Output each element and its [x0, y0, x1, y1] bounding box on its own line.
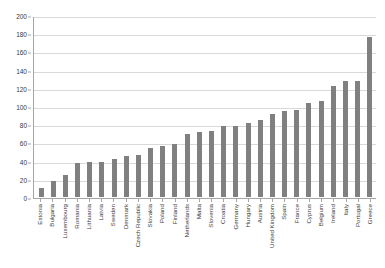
bar[interactable] [209, 131, 214, 197]
x-tick-slot: Finland [168, 199, 180, 268]
x-tick-mark [89, 199, 90, 202]
x-tick-label: Romania [74, 204, 80, 229]
bar[interactable] [63, 175, 68, 197]
x-tick-label: Denmark [123, 204, 129, 229]
bar-slot [278, 17, 290, 197]
bar[interactable] [331, 86, 336, 197]
bar[interactable] [246, 123, 251, 197]
x-tick-label: Malta [196, 204, 202, 219]
bar[interactable] [221, 126, 226, 197]
x-tick-label: Austria [257, 204, 263, 223]
bar[interactable] [343, 81, 348, 197]
y-tick-label: 160 [16, 50, 27, 57]
x-tick-mark [113, 199, 114, 202]
bar[interactable] [367, 37, 372, 197]
x-tick-label: Slovenia [208, 204, 214, 228]
bar[interactable] [75, 163, 80, 197]
x-tick-mark [272, 199, 273, 202]
bar-slot [327, 17, 339, 197]
y-tick-mark [28, 71, 31, 72]
bar-slot [230, 17, 242, 197]
x-tick-mark [284, 199, 285, 202]
bar[interactable] [197, 132, 202, 197]
x-tick-slot: Spain [278, 199, 290, 268]
x-tick-slot: Croatia [217, 199, 229, 268]
x-tick-mark [52, 199, 53, 202]
x-tick-mark [236, 199, 237, 202]
x-tick-mark [223, 199, 224, 202]
y-tick-mark [28, 126, 31, 127]
x-tick-label: Sweden [110, 204, 116, 226]
x-tick-mark [150, 199, 151, 202]
x-tick-label: Luxembourg [61, 204, 67, 238]
bar[interactable] [270, 114, 275, 197]
x-tick-mark [211, 199, 212, 202]
x-tick-slot: Romania [71, 199, 83, 268]
bar[interactable] [148, 148, 153, 197]
bar[interactable] [99, 162, 104, 197]
bar[interactable] [51, 181, 56, 197]
x-tick-mark [162, 199, 163, 202]
x-tick-label: Hungary [245, 204, 251, 227]
bar-slot [351, 17, 363, 197]
x-tick-slot: Belgium [315, 199, 327, 268]
bar-slot [205, 17, 217, 197]
bar[interactable] [319, 101, 324, 197]
y-tick-mark [28, 180, 31, 181]
x-tick-slot: Cyprus [303, 199, 315, 268]
bar[interactable] [355, 81, 360, 197]
x-tick-slot: Slovenia [205, 199, 217, 268]
x-tick-label: Cyprus [306, 204, 312, 224]
bar-slot [266, 17, 278, 197]
y-tick-mark [28, 199, 31, 200]
bar-slot [315, 17, 327, 197]
x-tick-slot: Latvia [95, 199, 107, 268]
x-tick-slot: Slovakia [144, 199, 156, 268]
y-tick-mark [28, 17, 31, 18]
bar-slot [157, 17, 169, 197]
x-tick-mark [309, 199, 310, 202]
x-tick-slot: Greece [364, 199, 376, 268]
x-tick-mark [138, 199, 139, 202]
x-tick-label: Croatia [220, 204, 226, 224]
x-tick-label: Belgium [318, 204, 324, 226]
bar[interactable] [306, 103, 311, 197]
bar[interactable] [258, 120, 263, 197]
x-tick-label: Italy [342, 204, 348, 215]
bar[interactable] [172, 144, 177, 197]
bar[interactable] [87, 162, 92, 197]
y-tick-mark [28, 162, 31, 163]
y-tick-label: 200 [16, 14, 27, 21]
bar-chart: 020406080100120140160180200 EstoniaBulga… [0, 0, 385, 268]
bar-slot [218, 17, 230, 197]
x-tick-slot: Malta [193, 199, 205, 268]
x-tick-slot: Netherlands [181, 199, 193, 268]
bar-slot [291, 17, 303, 197]
x-tick-label: Portugal [355, 204, 361, 227]
x-tick-label: Poland [159, 204, 165, 223]
bar[interactable] [136, 155, 141, 197]
x-tick-slot: Hungary [242, 199, 254, 268]
bar[interactable] [233, 126, 238, 197]
x-tick-mark [101, 199, 102, 202]
x-tick-slot: Ireland [327, 199, 339, 268]
bar-slot [364, 17, 376, 197]
bar[interactable] [39, 188, 44, 197]
x-tick-mark [248, 199, 249, 202]
bar[interactable] [282, 111, 287, 197]
x-tick-mark [126, 199, 127, 202]
bar[interactable] [294, 110, 299, 197]
bar[interactable] [112, 159, 117, 197]
y-tick-mark [28, 89, 31, 90]
y-tick-label: 80 [20, 123, 27, 130]
x-tick-slot: Bulgaria [46, 199, 58, 268]
bar[interactable] [160, 146, 165, 197]
bar[interactable] [124, 156, 129, 197]
y-tick-label: 60 [20, 141, 27, 148]
bar-slot [303, 17, 315, 197]
bar[interactable] [185, 134, 190, 197]
x-tick-slot: Sweden [107, 199, 119, 268]
y-tick-label: 40 [20, 159, 27, 166]
x-tick-slot: United Kingdom [266, 199, 278, 268]
y-tick-label: 180 [16, 32, 27, 39]
